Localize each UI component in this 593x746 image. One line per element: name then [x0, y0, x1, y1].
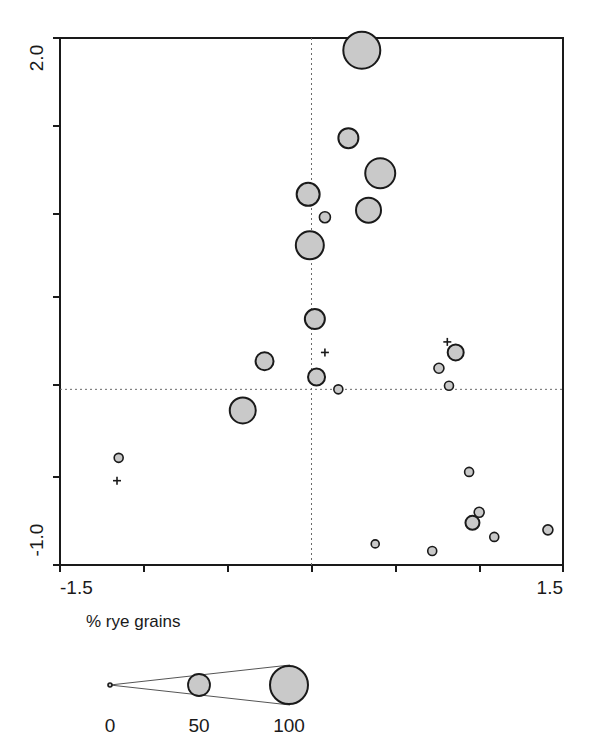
reference-lines	[60, 38, 563, 565]
legend-marker-100	[270, 666, 308, 704]
scatter-point	[334, 385, 343, 394]
legend-marker-50	[188, 674, 210, 696]
scatter-point	[343, 32, 380, 69]
scatter-point	[490, 532, 499, 541]
scatter-point	[465, 516, 479, 530]
scatter-point	[230, 397, 256, 423]
scatter-point	[319, 212, 330, 223]
scatter-point	[256, 352, 274, 370]
scatter-point	[428, 546, 437, 555]
legend-title: % rye grains	[86, 612, 180, 631]
size-legend: % rye grains 0 50 100	[86, 612, 308, 736]
legend-tick-100: 100	[273, 715, 305, 736]
x-axis-ticks	[60, 565, 563, 572]
plot-frame-rect	[60, 38, 563, 565]
scatter-point	[371, 540, 379, 548]
scatter-point	[114, 453, 123, 462]
data-points-layer	[113, 32, 553, 556]
scatter-plot-figure: 2.0 -1.0 -1.5 1.5 % rye grains 0 50 100	[0, 0, 593, 746]
scatter-point	[356, 198, 381, 223]
scatter-point	[338, 128, 358, 148]
y-axis-top-label: 2.0	[26, 45, 47, 71]
y-axis-bottom-label: -1.0	[26, 524, 47, 557]
legend-tick-50: 50	[188, 715, 209, 736]
scatter-point	[444, 381, 453, 390]
legend-marker-0	[108, 683, 112, 687]
legend-tick-0: 0	[105, 715, 116, 736]
x-axis-right-label: 1.5	[537, 577, 563, 598]
x-axis-left-label: -1.5	[60, 577, 93, 598]
scatter-point	[465, 467, 474, 476]
scatter-point	[365, 158, 395, 188]
cross-marker	[113, 477, 121, 485]
scatter-point	[297, 183, 320, 206]
scatter-point	[448, 344, 464, 360]
plot-frame	[60, 38, 563, 565]
y-axis-ticks	[53, 38, 60, 565]
scatter-point	[308, 369, 325, 386]
scatter-point	[543, 525, 553, 535]
scatter-point	[296, 231, 324, 259]
chart-canvas: 2.0 -1.0 -1.5 1.5 % rye grains 0 50 100	[0, 0, 593, 746]
cross-marker	[443, 338, 451, 346]
scatter-point	[305, 309, 325, 329]
scatter-point	[434, 363, 444, 373]
cross-marker	[321, 348, 329, 356]
